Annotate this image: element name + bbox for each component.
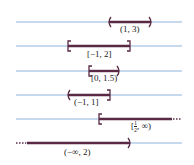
interval-label-5: [12, ∞) bbox=[131, 120, 151, 133]
row-4 bbox=[16, 90, 182, 100]
interval-label-6: (−∞, 2) bbox=[64, 148, 91, 157]
interval-label-3: [0, 1.5) bbox=[91, 74, 117, 83]
row-5 bbox=[16, 114, 182, 124]
row-6 bbox=[16, 138, 182, 148]
interval-label-2: [−1, 2] bbox=[87, 50, 112, 59]
row-1 bbox=[16, 17, 182, 27]
interval-label-1: (1, 3) bbox=[120, 25, 140, 34]
interval-label-4: (−1, 1] bbox=[74, 98, 99, 107]
